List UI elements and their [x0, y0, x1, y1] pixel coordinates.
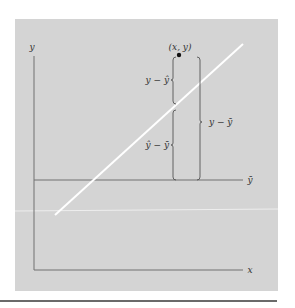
total-label: y − ȳ	[208, 117, 233, 127]
residual-label: y − ŷ	[145, 75, 170, 85]
y-axis-label: y	[28, 42, 35, 52]
figure-panel	[15, 19, 278, 291]
x-axis-label: x	[247, 265, 252, 275]
point-label: (x, y)	[169, 42, 192, 52]
data-point	[177, 53, 181, 57]
mean-y-label: ȳ	[246, 175, 253, 185]
regression-deviation-diagram: y x ȳ (x, y) y − ŷ ŷ − ȳ y − ȳ	[0, 0, 295, 308]
explained-label: ŷ − ȳ	[145, 140, 170, 150]
